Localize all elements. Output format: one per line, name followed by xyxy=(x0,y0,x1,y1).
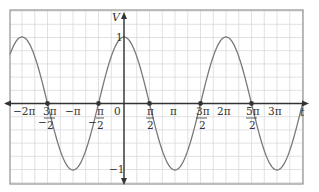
denominator: 2 xyxy=(47,119,54,131)
numerator: 5π xyxy=(246,105,260,117)
x-tick-3pi: 3π xyxy=(268,105,282,117)
x-tick-neg-pi-over-2: − π 2 xyxy=(88,105,104,131)
y-axis-label: V xyxy=(112,11,121,24)
denominator: 2 xyxy=(147,119,154,131)
plot-frame xyxy=(10,10,303,184)
numerator: π xyxy=(97,105,104,117)
minus-sign: − xyxy=(88,116,97,128)
x-tick-pi-over-2: π 2 xyxy=(146,105,154,131)
numerator: π xyxy=(147,105,154,117)
x-tick-3pi-over-2: 3π 2 xyxy=(196,105,210,131)
origin-label: 0 xyxy=(114,105,121,117)
x-tick-2pi: 2π xyxy=(217,105,231,117)
denominator: 2 xyxy=(199,119,206,131)
denominator: 2 xyxy=(97,119,104,131)
numerator: 3π xyxy=(43,105,57,117)
numerator: 3π xyxy=(196,105,210,117)
x-axis-arrow-left-icon xyxy=(4,101,11,107)
cosine-graph: V t 1 −1 0 −2π −π π 2π 3π − 3π 2 − π 2 π… xyxy=(0,0,319,192)
denominator: 2 xyxy=(249,119,256,131)
grid-lines xyxy=(10,10,303,184)
y-tick-minus-1: −1 xyxy=(109,163,124,175)
x-tick-pi: π xyxy=(170,105,177,117)
x-tick-neg-2pi: −2π xyxy=(13,105,35,117)
y-tick-1: 1 xyxy=(116,31,123,43)
x-tick-neg-pi: −π xyxy=(65,105,81,117)
x-axis-label: t xyxy=(300,106,305,119)
y-axis-arrow-up-icon xyxy=(121,12,127,19)
